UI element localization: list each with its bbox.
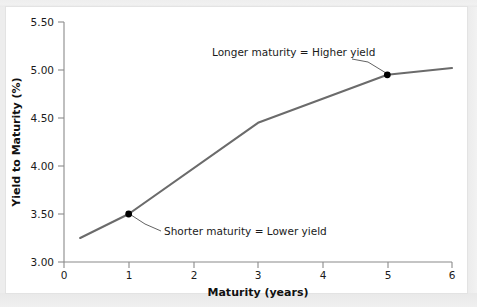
- x-tick-label-4: 4: [320, 269, 327, 281]
- y-axis-title: Yield to Maturity (%): [10, 77, 23, 207]
- data-point-marker-1: [125, 211, 132, 218]
- y-tick-label-3-50: 3.50: [31, 208, 54, 220]
- y-tick-label-4-00: 4.00: [31, 160, 54, 172]
- x-tick-label-3: 3: [255, 269, 262, 281]
- annotation-longer-maturity: Longer maturity = Higher yield: [212, 46, 386, 73]
- y-tick-label-5-50: 5.50: [31, 16, 54, 28]
- y-tick-label-4-50: 4.50: [31, 112, 54, 124]
- annotation-shorter-maturity: Shorter maturity = Lower yield: [128, 213, 327, 237]
- annotation-shorter-maturity-text: Shorter maturity = Lower yield: [164, 225, 327, 237]
- annotation-longer-maturity-leader: [352, 59, 386, 73]
- y-axis: 5.50 5.00 4.50 4.00 3.50 3.00 Yield to M…: [10, 16, 64, 268]
- data-point-marker-2: [384, 71, 391, 78]
- x-tick-label-0: 0: [61, 269, 68, 281]
- annotation-shorter-maturity-leader: [128, 213, 161, 231]
- data-point-markers: [125, 71, 390, 217]
- yield-curve-line: [80, 68, 452, 238]
- data-series-group: [80, 68, 452, 238]
- y-tick-label-5-00: 5.00: [31, 64, 54, 76]
- x-tick-label-6: 6: [449, 269, 456, 281]
- x-tick-label-1: 1: [126, 269, 133, 281]
- x-axis: 0 1 2 3 4 5 6 Maturity (years): [61, 262, 456, 299]
- yield-curve-chart: 5.50 5.00 4.50 4.00 3.50 3.00 Yield to M…: [0, 0, 477, 307]
- figure-container: 5.50 5.00 4.50 4.00 3.50 3.00 Yield to M…: [0, 0, 477, 307]
- x-tick-label-5: 5: [385, 269, 392, 281]
- x-tick-label-2: 2: [191, 269, 198, 281]
- x-axis-title: Maturity (years): [208, 286, 309, 299]
- annotation-longer-maturity-text: Longer maturity = Higher yield: [212, 46, 375, 58]
- y-tick-label-3-00: 3.00: [31, 256, 54, 268]
